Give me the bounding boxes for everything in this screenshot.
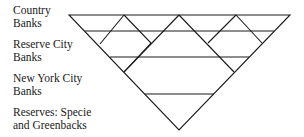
left-peak-left-edge (100, 15, 124, 44)
center-peak-right-edge (179, 15, 234, 72)
left-small-triangle (124, 15, 151, 72)
inverted-pyramid-diagram (0, 0, 304, 137)
right-peak-left-edge (208, 15, 236, 43)
right-peak-right-edge (236, 15, 262, 43)
outer-triangle (69, 15, 290, 130)
